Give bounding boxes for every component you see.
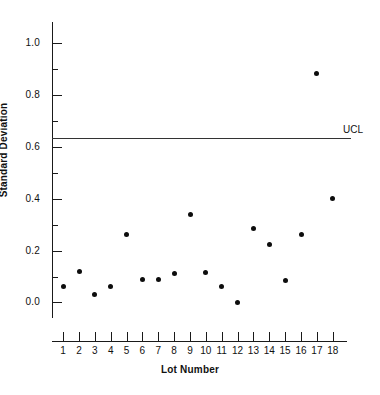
data-point	[283, 278, 288, 283]
x-tick	[206, 332, 207, 341]
x-tick	[174, 332, 175, 341]
y-tick-major	[52, 251, 62, 252]
y-tick-major	[52, 43, 62, 44]
x-tick	[301, 332, 302, 341]
x-tick	[79, 332, 80, 341]
y-tick-minor	[52, 277, 58, 278]
y-tick-label: 0.6	[6, 142, 40, 152]
y-tick-label: 0.4	[6, 194, 40, 204]
data-point	[188, 212, 193, 217]
ucl-label: UCL	[343, 125, 363, 135]
y-tick-label: 0.0	[6, 297, 40, 307]
y-tick-label: 0.2	[6, 246, 40, 256]
y-tick-minor	[52, 225, 58, 226]
x-tick	[269, 332, 270, 341]
data-point	[140, 277, 145, 282]
data-point	[124, 232, 129, 237]
x-tick	[285, 332, 286, 341]
y-tick-major	[52, 199, 62, 200]
data-point	[235, 300, 240, 305]
y-tick-major	[52, 147, 62, 148]
x-tick	[142, 332, 143, 341]
x-tick	[222, 332, 223, 341]
y-axis-line	[52, 22, 53, 318]
y-tick-minor	[52, 173, 58, 174]
data-point	[314, 71, 319, 76]
x-axis-title: Lot Number	[0, 364, 380, 375]
x-tick-label: 18	[324, 345, 342, 356]
y-axis-title: Standard Deviation	[0, 103, 9, 198]
x-tick	[95, 332, 96, 341]
data-point	[299, 232, 304, 237]
y-tick-major	[52, 302, 62, 303]
data-point	[108, 284, 113, 289]
control-chart: 1.00.80.60.40.20.0 123456789101112131415…	[0, 0, 380, 395]
ucl-line	[52, 138, 351, 139]
x-tick	[158, 332, 159, 341]
x-tick	[127, 332, 128, 341]
data-point	[219, 284, 224, 289]
y-tick-label: 1.0	[6, 38, 40, 48]
y-tick-major	[52, 95, 62, 96]
x-tick	[111, 332, 112, 341]
x-axis-line	[52, 341, 347, 342]
x-tick	[63, 332, 64, 341]
x-tick	[238, 332, 239, 341]
data-point	[267, 242, 272, 247]
data-point	[156, 277, 161, 282]
data-point	[92, 292, 97, 297]
data-point	[77, 269, 82, 274]
y-tick-minor	[52, 121, 58, 122]
data-point	[251, 226, 256, 231]
x-tick	[190, 332, 191, 341]
x-tick	[333, 332, 334, 341]
y-tick-label: 0.8	[6, 90, 40, 100]
data-point	[61, 284, 66, 289]
data-point	[172, 271, 177, 276]
x-tick	[253, 332, 254, 341]
x-tick	[317, 332, 318, 341]
y-tick-minor	[52, 69, 58, 70]
data-point	[203, 270, 208, 275]
data-point	[330, 196, 335, 201]
